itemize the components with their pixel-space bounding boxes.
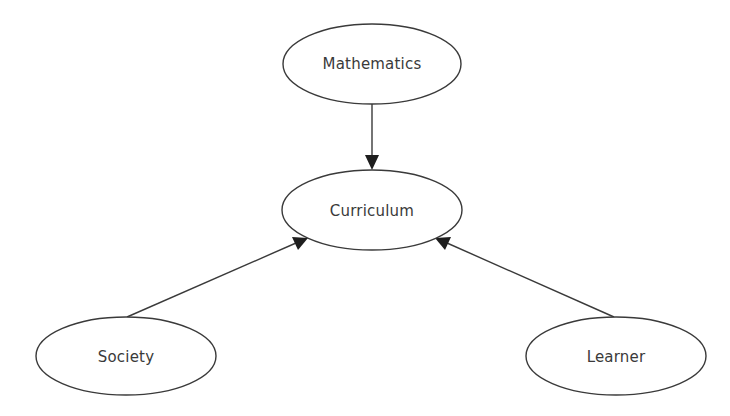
arrowhead-icon — [365, 155, 379, 170]
edge-mathematics-to-curriculum — [365, 104, 379, 170]
edge-society-to-curriculum — [127, 237, 308, 317]
node-label-society: Society — [98, 348, 155, 366]
edge-learner-to-curriculum — [435, 237, 614, 317]
node-label-learner: Learner — [587, 348, 646, 366]
node-label-mathematics: Mathematics — [323, 55, 422, 73]
node-label-curriculum: Curriculum — [330, 202, 414, 220]
